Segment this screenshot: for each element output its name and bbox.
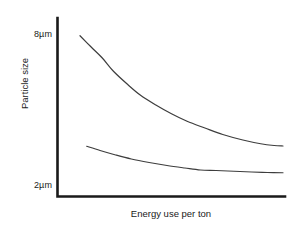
data-series-group xyxy=(80,36,283,173)
axes-group xyxy=(58,18,286,197)
x-axis-title: Energy use per ton xyxy=(57,208,285,219)
series-line-upper xyxy=(80,36,283,146)
y-axis-title: Particle size xyxy=(19,24,30,144)
axis-spines xyxy=(58,18,286,197)
y-axis-tick-label-top: 8µm xyxy=(8,30,52,39)
y-axis-tick-label-bottom: 2µm xyxy=(8,181,52,190)
series-line-lower xyxy=(87,146,283,173)
particle-size-chart: 8µm 2µm Particle size Energy use per ton xyxy=(0,0,300,229)
